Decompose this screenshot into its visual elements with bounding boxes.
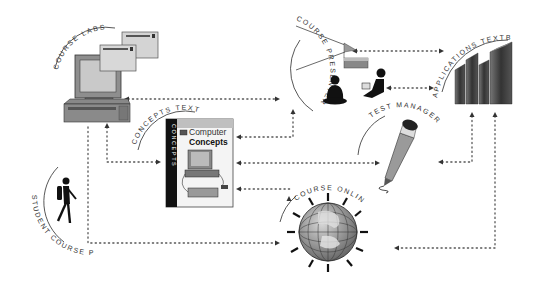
globe-icon <box>287 193 368 272</box>
book-spine-text: CONCEPTS <box>171 124 177 167</box>
connectors <box>88 49 498 251</box>
student-walking-icon <box>57 178 76 224</box>
book-title-line1: Computer <box>189 127 226 137</box>
computer-with-windows-icon <box>64 32 158 122</box>
node-test-manager[interactable]: TEST MANAGER <box>358 101 442 193</box>
book-title-line2: Concepts <box>189 137 228 147</box>
pencil-icon <box>379 118 419 193</box>
node-course-labs[interactable]: COURSE LABS <box>52 23 158 122</box>
node-course-presenter[interactable]: COURSE PRESENTER <box>291 14 386 111</box>
projector-audience-icon <box>296 26 386 105</box>
product-ecosystem-diagram: COURSE LABS COURSE PRESENTER <box>0 0 550 287</box>
book-cover-icon: CONCEPTS Computer Concepts <box>166 119 233 207</box>
